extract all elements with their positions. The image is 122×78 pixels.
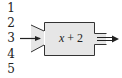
machine-rule-label: x + 2 (50, 30, 92, 46)
rule-variable: x (59, 31, 64, 45)
rule-constant: 2 (77, 31, 83, 45)
rule-operator: + (67, 31, 74, 45)
